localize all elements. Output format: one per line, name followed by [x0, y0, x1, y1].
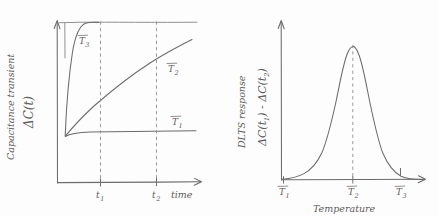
curve-label-T1: T 1	[171, 116, 183, 130]
xtick-label-T3-sub: 3	[402, 192, 406, 200]
xtick-label-t2-sub: 2	[155, 195, 160, 203]
curve-label-T3-sub: 3	[85, 41, 89, 49]
xtick-label-T2-sub: 2	[353, 192, 358, 200]
dlts-figure: Capacitance transient ΔC(t) T 3 T 2 T 1 …	[0, 0, 439, 216]
xtick-label-T3: T 3	[395, 186, 407, 200]
xtick-label-T1-sub: 1	[285, 192, 289, 200]
curve-label-T1-sub: 1	[178, 122, 182, 130]
left-panel: Capacitance transient ΔC(t) T 3 T 2 T 1 …	[5, 21, 202, 204]
left-x-axis-label: time	[171, 189, 193, 200]
right-y-axis-label-line1: DLTS response	[236, 75, 247, 149]
curve-label-T3: T 3	[78, 35, 89, 49]
xtick-label-t1-sub: 1	[100, 195, 104, 203]
xtick-label-T2: T 2	[347, 186, 359, 200]
right-y-axis	[278, 21, 284, 181]
curve-label-T2: T 2	[167, 63, 179, 77]
xtick-label-T1: T 1	[278, 186, 290, 200]
curve-label-T2-sub: 2	[173, 69, 178, 77]
left-y-axis	[54, 21, 60, 184]
xtick-label-t1: t 1	[96, 190, 104, 203]
ylabel-dc1: ΔC(t	[256, 120, 269, 147]
ylabel-end: )	[256, 68, 269, 73]
left-x-axis	[58, 178, 202, 185]
curve-T1	[65, 131, 196, 137]
right-y-axis-label-line2-group: ΔC(t1) - ΔC(t2)	[256, 68, 271, 147]
left-y-axis-label-line1: Capacitance transient	[5, 54, 16, 160]
xtick-label-t2: t 2	[152, 190, 160, 203]
svg-text:ΔC(t1) - ΔC(t2): ΔC(t1) - ΔC(t2)	[256, 68, 271, 147]
ylabel-mid: ) - ΔC(t	[256, 76, 269, 118]
right-x-axis-label: Temperature	[313, 203, 376, 214]
left-y-axis-label-line2: ΔC(t)	[22, 96, 36, 129]
right-panel: DLTS response ΔC(t1) - ΔC(t2) T 1 T 2 T …	[236, 21, 426, 215]
left-y-axis-label-line2-group: ΔC(t)	[22, 96, 36, 129]
figure-canvas: Capacitance transient ΔC(t) T 3 T 2 T 1 …	[0, 0, 439, 216]
